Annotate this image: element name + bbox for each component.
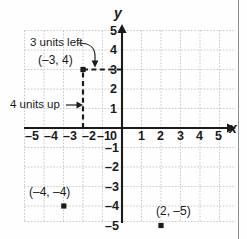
coordinate-plane-figure: y x 0 –5 –4 –3 –2 –1 1 2 3 4 5 1 2 3 4 5…: [0, 0, 247, 239]
x-tick-label-3: 3: [177, 130, 184, 143]
annotation-three-units-left: 3 units left: [30, 37, 82, 49]
y-axis-label: y: [114, 6, 122, 20]
y-tick-label-1: 1: [110, 103, 117, 116]
point-dot-neg3-4: [80, 67, 85, 72]
y-tick-label-neg3: –3: [105, 181, 119, 194]
x-tick-label-5: 5: [215, 130, 222, 143]
y-tick-label-neg4: –4: [105, 200, 119, 213]
x-tick-label-neg2: –2: [82, 130, 96, 143]
annotation-four-units-up: 4 units up: [10, 99, 60, 111]
point-label-2-neg5: (2, –5): [156, 205, 191, 217]
x-tick-label-neg3: –3: [63, 130, 77, 143]
four-units-up-arrow: [66, 102, 83, 109]
y-tick-label-neg5: –5: [105, 220, 119, 233]
y-tick-label-2: 2: [110, 83, 117, 96]
y-tick-label-3: 3: [110, 64, 117, 77]
x-tick-label-2: 2: [157, 130, 164, 143]
y-tick-label-4: 4: [110, 44, 117, 57]
x-tick-label-neg5: –5: [25, 130, 39, 143]
point-dot-2-neg5: [158, 223, 163, 228]
x-axis-label: x: [229, 121, 237, 135]
point-label-neg4-neg4: (–4, –4): [29, 186, 70, 198]
y-tick-label-5: 5: [110, 25, 117, 38]
x-tick-label-1: 1: [138, 130, 145, 143]
y-tick-label-neg2: –2: [105, 161, 119, 174]
page-margin-rule: [238, 0, 239, 239]
point-label-neg3-4: (–3, 4): [38, 54, 73, 66]
y-tick-label-neg1: –1: [105, 142, 119, 155]
x-tick-label-4: 4: [196, 130, 203, 143]
point-dot-neg4-neg4: [61, 203, 66, 208]
x-tick-label-neg4: –4: [44, 130, 58, 143]
